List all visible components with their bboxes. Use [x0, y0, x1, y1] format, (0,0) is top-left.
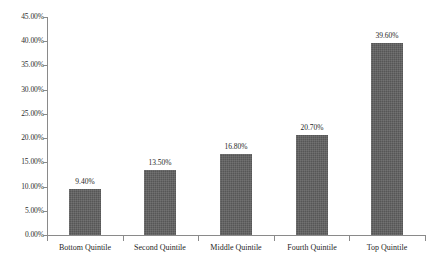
category-label: Middle Quintile — [196, 243, 276, 253]
x-axis-tick-mark — [349, 236, 350, 241]
y-axis-tick-label: 30.00% — [0, 86, 44, 94]
bar-value-label: 16.80% — [206, 143, 266, 151]
bar-value-label: 9.40% — [55, 178, 115, 186]
y-axis-tick-label: 25.00% — [0, 110, 44, 118]
y-axis-tick-label: 35.00% — [0, 61, 44, 69]
bar-value-label: 13.50% — [130, 159, 190, 167]
category-label: Bottom Quintile — [45, 243, 125, 253]
x-axis-tick-mark — [274, 236, 275, 241]
x-axis-tick-mark — [198, 236, 199, 241]
bar — [296, 135, 328, 235]
bar — [371, 43, 403, 235]
y-axis-tick-label: 5.00% — [0, 207, 44, 215]
category-label: Top Quintile — [347, 243, 427, 253]
bar-value-label: 39.60% — [357, 32, 417, 40]
x-axis-tick-mark — [47, 236, 48, 241]
category-label: Fourth Quintile — [272, 243, 352, 253]
x-axis-line — [47, 235, 426, 236]
bar-chart: 0.00%5.00%10.00%15.00%20.00%25.00%30.00%… — [0, 0, 444, 272]
x-axis-tick-mark — [425, 236, 426, 241]
bar — [220, 154, 252, 235]
plot-area — [47, 17, 425, 235]
bar — [69, 189, 101, 235]
y-axis-tick-label: 10.00% — [0, 183, 44, 191]
x-axis-tick-mark — [123, 236, 124, 241]
y-axis-tick-label: 20.00% — [0, 134, 44, 142]
y-axis-tick-label: 45.00% — [0, 13, 44, 21]
y-axis-tick-label: 40.00% — [0, 37, 44, 45]
y-axis-tick-label: 15.00% — [0, 158, 44, 166]
bar — [144, 170, 176, 235]
bar-value-label: 20.70% — [282, 124, 342, 132]
category-label: Second Quintile — [120, 243, 200, 253]
y-axis-tick-label: 0.00% — [0, 231, 44, 239]
